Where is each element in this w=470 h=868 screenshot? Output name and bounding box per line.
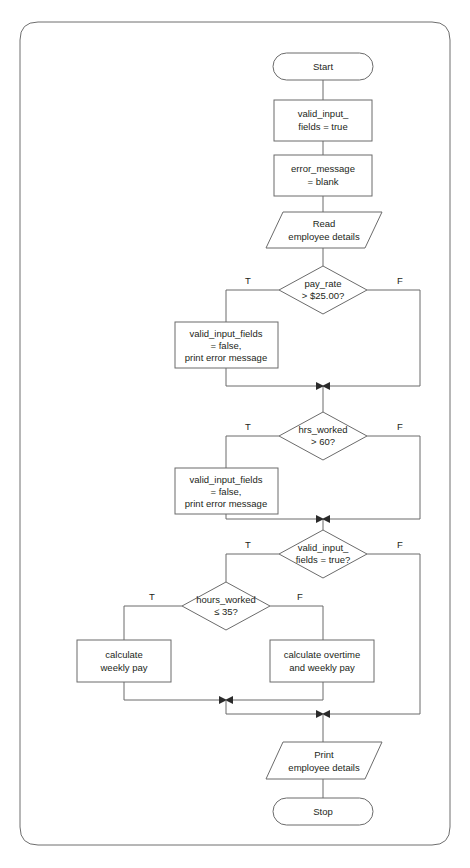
flowchart-page: Start valid_input_ fields = true error_m…: [0, 0, 470, 868]
edge-dec-hours35-false: [270, 606, 323, 640]
node-stop[interactable]: Stop: [273, 798, 373, 825]
node-calculate-weekly-pay[interactable]: calculate weekly pay: [77, 640, 171, 682]
node-error-hrs-worked[interactable]: valid_input_fields = false, print error …: [175, 468, 278, 514]
init-valid-label-line1: valid_input_: [298, 108, 349, 119]
print-label-line1: Print: [314, 749, 334, 760]
dec-payrate-false-label: F: [397, 275, 403, 286]
stop-label: Stop: [313, 806, 333, 817]
node-print-employee-details[interactable]: Print employee details: [266, 742, 382, 779]
edge-dec-hrs-true: [226, 436, 279, 468]
edge-calc-weekly-to-merge3: [124, 682, 219, 700]
connector-layer: [124, 80, 420, 798]
node-init-error-message[interactable]: error_message = blank: [274, 155, 372, 196]
init-error-label-line1: error_message: [291, 163, 355, 174]
dec-hrs-label-line2: > 60?: [311, 436, 335, 447]
edge-dec-payrate-false: [330, 290, 420, 386]
node-calculate-overtime-weekly-pay[interactable]: calculate overtime and weekly pay: [270, 640, 374, 682]
dec-valid-label-line1: valid_input_: [298, 542, 349, 553]
calc-weekly-label-line2: weekly pay: [100, 662, 148, 673]
edge-dec-hours35-true: [124, 606, 182, 640]
dec-payrate-label-line1: pay_rate: [305, 278, 342, 289]
dec-valid-true-label: T: [245, 539, 251, 550]
node-read-employee-details[interactable]: Read employee details: [266, 212, 382, 248]
edge-err-payrate-to-merge1: [226, 368, 316, 386]
dec-hrs-false-label: F: [397, 421, 403, 432]
dec-hrs-label-line1: hrs_worked: [298, 424, 347, 435]
err-payrate-label-line3: print error message: [185, 352, 267, 363]
err-payrate-label-line1: valid_input_fields: [190, 328, 263, 339]
err-hrs-label-line2: = false,: [211, 486, 242, 497]
dec-hrs-true-label: T: [245, 421, 251, 432]
init-error-label-line2: = blank: [308, 176, 339, 187]
read-label-line1: Read: [313, 218, 336, 229]
print-label-line2: employee details: [288, 762, 360, 773]
node-start[interactable]: Start: [273, 53, 373, 80]
dec-hours35-label-line1: hours_worked: [196, 594, 256, 605]
dec-payrate-true-label: T: [245, 275, 251, 286]
calc-ot-label-line2: and weekly pay: [289, 662, 355, 673]
flowchart-canvas: Start valid_input_ fields = true error_m…: [0, 0, 470, 868]
calc-ot-label-line1: calculate overtime: [284, 649, 361, 660]
dec-hours35-label-line2: ≤ 35?: [214, 606, 238, 617]
init-valid-label-line2: fields = true: [298, 121, 347, 132]
dec-hours35-true-label: T: [149, 591, 155, 602]
node-init-valid-input-fields[interactable]: valid_input_ fields = true: [274, 100, 372, 141]
edge-dec-valid-false: [330, 554, 420, 714]
read-label-line2: employee details: [288, 231, 360, 242]
err-payrate-label-line2: = false,: [211, 340, 242, 351]
dec-valid-label-line2: fields = true?: [296, 554, 351, 565]
edge-merge3-to-merge4: [226, 700, 316, 714]
dec-hours35-false-label: F: [297, 591, 303, 602]
edge-dec-valid-true: [226, 554, 279, 582]
edge-err-hrs-to-merge2: [226, 514, 316, 519]
dec-payrate-label-line2: > $25.00?: [302, 290, 345, 301]
err-hrs-label-line3: print error message: [185, 498, 267, 509]
page-border: [20, 22, 450, 845]
node-error-pay-rate[interactable]: valid_input_fields = false, print error …: [175, 322, 278, 368]
edge-dec-payrate-true: [226, 290, 279, 322]
start-label: Start: [313, 61, 333, 72]
dec-valid-false-label: F: [397, 539, 403, 550]
calc-weekly-label-line1: calculate: [105, 649, 143, 660]
err-hrs-label-line1: valid_input_fields: [190, 474, 263, 485]
edge-calc-ot-to-merge3: [233, 682, 323, 700]
